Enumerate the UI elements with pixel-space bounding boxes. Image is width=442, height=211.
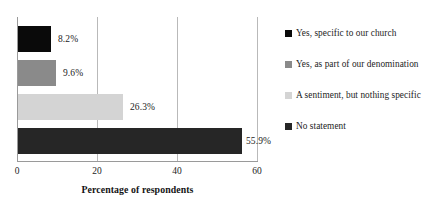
plot-area: 8.2% 9.6% 26.3% 55.9% — [17, 17, 258, 162]
legend-item: A sentiment, but nothing specific — [285, 90, 442, 101]
bar-no-statement — [18, 128, 242, 154]
bar-chart-figure: 8.2% 9.6% 26.3% 55.9% 0 20 40 60 Percent… — [0, 0, 442, 211]
legend-swatch-icon — [285, 123, 292, 130]
bar-yes-as-part-of-our-denomination — [18, 60, 56, 86]
bar-value-label: 8.2% — [58, 34, 78, 44]
x-tick-20: 20 — [92, 166, 102, 176]
legend-item-label: Yes, as part of our denomination — [296, 59, 419, 70]
bar-value-label: 26.3% — [130, 102, 155, 112]
legend-item: Yes, as part of our denomination — [285, 59, 442, 70]
bar-yes-specific-to-our-church — [18, 26, 51, 52]
x-axis-line — [17, 161, 258, 162]
x-tick-40: 40 — [172, 166, 182, 176]
legend-swatch-icon — [285, 92, 292, 99]
legend-swatch-icon — [285, 61, 292, 68]
legend-item-label: No statement — [296, 121, 346, 132]
x-tick-60: 60 — [252, 166, 262, 176]
chart-legend: Yes, specific to our church Yes, as part… — [285, 28, 442, 152]
legend-item: Yes, specific to our church — [285, 28, 442, 39]
legend-swatch-icon — [285, 30, 292, 37]
x-axis-title: Percentage of respondents — [17, 184, 258, 195]
legend-item-label: A sentiment, but nothing specific — [296, 90, 421, 101]
legend-item: No statement — [285, 121, 442, 132]
legend-item-label: Yes, specific to our church — [296, 28, 396, 39]
bar-value-label: 9.6% — [63, 68, 83, 78]
bar-a-sentiment-but-nothing-specific — [18, 94, 123, 120]
bar-value-label: 55.9% — [246, 136, 271, 146]
x-tick-0: 0 — [15, 166, 20, 176]
